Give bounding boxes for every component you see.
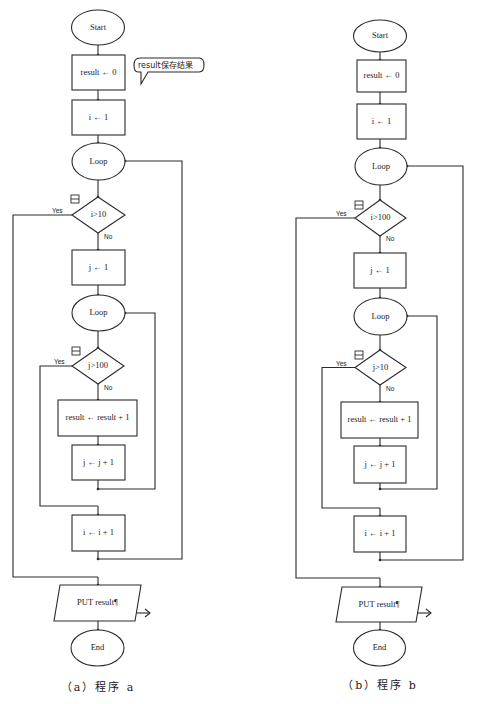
outer-loop-label: Loop [372, 161, 390, 171]
inner-loop-node-a: Loop [72, 295, 125, 331]
outer-condition-label: i>10 [91, 209, 107, 219]
inner-loop-node-b: Loop [354, 298, 407, 335]
inner-condition-node-b: j>10 Yes No [336, 350, 406, 392]
init-i-node-a: i ← 1 [72, 100, 125, 135]
start-node-b: Start [354, 20, 407, 52]
yes-label: Yes [52, 207, 63, 214]
inc-i-node-b: i ← i + 1 [354, 516, 406, 552]
body-node-a: result ← result + 1 [58, 400, 137, 436]
inner-condition-label: j>100 [87, 360, 108, 370]
init-result-label: result ← 0 [81, 67, 117, 77]
inc-j-node-b: j ← j + 1 [354, 446, 406, 483]
start-label: Start [372, 30, 389, 40]
init-result-node-a: result ← 0 [72, 55, 125, 90]
no-label: No [104, 384, 113, 391]
yes-label: Yes [336, 360, 347, 367]
flowchart-panel-a: Start result ← 0 result保存结果 i ← 1 Loop i… [13, 10, 204, 694]
collapse-icon [72, 347, 80, 355]
body-label: result ← result + 1 [348, 414, 412, 424]
flowchart-panel-b: Start result ← 0 i ← 1 Loop i>100 Yes No [296, 20, 463, 692]
inc-i-label: i ← i + 1 [83, 527, 114, 537]
collapse-icon [355, 351, 363, 359]
body-label: result ← result + 1 [66, 412, 130, 422]
inner-loop-label: Loop [372, 311, 390, 321]
no-label: No [386, 385, 395, 392]
inc-j-label: j ← j + 1 [82, 457, 114, 467]
init-i-node-b: i ← 1 [357, 104, 406, 139]
comment-bubble-a: result保存结果 [134, 58, 204, 84]
collapse-icon [71, 195, 79, 203]
output-node-a: PUT result¶ [54, 585, 141, 621]
no-label: No [104, 233, 113, 240]
flowchart-canvas: Start result ← 0 result保存结果 i ← 1 Loop i… [0, 0, 477, 704]
init-j-label: j ← 1 [88, 262, 108, 272]
end-node-a: End [71, 630, 124, 666]
yes-label: Yes [336, 210, 347, 217]
init-j-node-a: j ← 1 [72, 250, 125, 285]
inc-j-label: j ← j + 1 [364, 459, 396, 469]
inner-loop-label: Loop [90, 307, 108, 317]
start-label: Start [90, 22, 107, 32]
comment-text: result保存结果 [138, 60, 193, 70]
outer-loop-node-a: Loop [72, 143, 125, 180]
inc-i-node-a: i ← i + 1 [72, 515, 125, 551]
outer-loop-label: Loop [90, 156, 108, 166]
inc-j-node-a: j ← j + 1 [72, 445, 125, 480]
collapse-icon [355, 201, 363, 209]
init-i-label: i ← 1 [372, 116, 391, 126]
end-label: End [91, 642, 105, 652]
caption-a: （a）程序 a [61, 680, 136, 694]
body-node-b: result ← result + 1 [341, 402, 418, 438]
inc-i-label: i ← i + 1 [365, 528, 396, 538]
outer-loop-node-b: Loop [355, 148, 407, 185]
inner-condition-label: j>10 [372, 362, 389, 372]
init-j-node-b: j ← 1 [354, 253, 406, 288]
init-i-label: i ← 1 [89, 112, 108, 122]
output-label: PUT result¶ [359, 599, 400, 609]
outer-condition-node-a: i>10 Yes No [52, 195, 125, 240]
caption-b: （b）程序 b [342, 678, 418, 692]
outer-condition-node-b: i>100 Yes No [336, 200, 406, 242]
outer-condition-label: i>100 [371, 212, 391, 222]
init-j-label: j ← 1 [369, 265, 389, 275]
end-node-b: End [354, 630, 406, 666]
start-node-a: Start [72, 10, 125, 45]
end-label: End [373, 642, 387, 652]
no-label: No [386, 235, 395, 242]
init-result-node-b: result ← 0 [357, 60, 406, 92]
init-result-label: result ← 0 [364, 70, 400, 80]
yes-label: Yes [54, 358, 65, 365]
output-node-b: PUT result¶ [336, 587, 422, 622]
inner-condition-node-a: j>100 Yes No [54, 347, 124, 391]
output-label: PUT result¶ [77, 597, 118, 607]
